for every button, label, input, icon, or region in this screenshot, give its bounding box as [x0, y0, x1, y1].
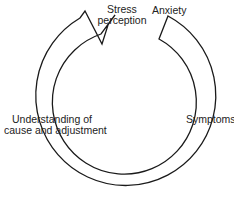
cycle-arrow — [0, 0, 234, 202]
node-understanding: Understanding of cause and adjustment — [4, 114, 100, 136]
node-stress-line2: perception — [92, 15, 152, 26]
node-symptoms-text: Symptoms — [186, 113, 234, 125]
node-anxiety-text: Anxiety — [152, 4, 186, 16]
node-understanding-line2: cause and adjustment — [4, 125, 100, 136]
node-anxiety: Anxiety — [152, 5, 186, 16]
node-stress-perception: Stress perception — [92, 4, 152, 26]
node-symptoms: Symptoms — [186, 114, 234, 125]
cycle-arrow-body — [36, 11, 216, 185]
